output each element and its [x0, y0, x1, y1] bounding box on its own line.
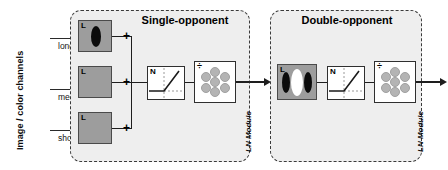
receptive-field-medium: L: [78, 66, 112, 98]
pool-unit: [220, 72, 230, 82]
rf-center-blob: [291, 69, 303, 96]
receptive-field-short: L: [78, 112, 112, 144]
division-icon: ÷: [377, 61, 382, 71]
nonlinearity-tag: N: [330, 67, 336, 76]
nonlinearity-box-double: N: [327, 66, 365, 100]
nonlinearity-box-single: N: [147, 66, 185, 100]
rf-center-blob: [91, 26, 101, 47]
pool-unit: [400, 72, 410, 82]
output-arrow-single: [236, 78, 272, 86]
pool-unit: [201, 72, 211, 82]
rf-surround-blob-left: [282, 72, 290, 93]
input-axis-label: Image / color channels: [15, 51, 25, 150]
pool-unit: [381, 72, 391, 82]
summation-sign-medium: +: [123, 77, 130, 87]
normalization-box-single: ÷: [194, 61, 236, 103]
division-icon: ÷: [197, 61, 202, 71]
single-opponent-title: Single-opponent: [130, 14, 240, 26]
diagram-canvas: Image / color channels long medium short…: [0, 0, 448, 170]
receptive-field-double: L: [277, 64, 317, 100]
output-arrow-double: [416, 78, 448, 86]
pool-unit: [390, 67, 400, 77]
pool-unit: [210, 67, 220, 77]
single-opponent-ln-label: LN Module: [244, 111, 253, 152]
summation-sign-short: +: [123, 123, 130, 133]
receptive-field-tag: L: [81, 67, 86, 76]
receptive-field-tag: L: [81, 21, 86, 30]
pool-unit: [201, 83, 211, 93]
receptive-field-tag: L: [81, 113, 86, 122]
rf-surround-blob-right: [304, 72, 312, 93]
pool-unit: [220, 83, 230, 93]
pool-unit: [210, 77, 220, 87]
pool-unit: [390, 87, 400, 97]
double-opponent-ln-label: LN Module: [416, 111, 425, 152]
pool-unit: [390, 77, 400, 87]
wire-bus-to-n: [131, 82, 148, 83]
nonlinearity-tag: N: [150, 67, 156, 76]
normalization-box-double: ÷: [374, 61, 416, 103]
pool-unit: [400, 83, 410, 93]
pool-unit: [381, 83, 391, 93]
double-opponent-title: Double-opponent: [288, 14, 406, 26]
summation-sign-long: +: [123, 31, 130, 41]
receptive-field-long: L: [78, 20, 112, 52]
pool-unit: [210, 87, 220, 97]
